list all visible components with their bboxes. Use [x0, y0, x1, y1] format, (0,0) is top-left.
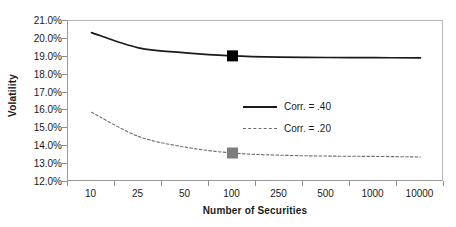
y-axis-tick-label: 21.0%: [34, 15, 62, 26]
x-axis-tick-mark: [208, 181, 209, 186]
x-axis-tick-mark: [302, 181, 303, 186]
x-axis-tick-mark: [161, 181, 162, 186]
y-axis-tick-mark: [62, 74, 67, 75]
y-axis-tick-label: 13.0%: [34, 158, 62, 169]
y-axis-tick-label: 20.0%: [34, 32, 62, 43]
x-axis-title: Number of Securities: [67, 205, 443, 216]
y-axis-tick-label: 17.0%: [34, 86, 62, 97]
volatility-line-chart: Volatility 21.0%20.0%19.0%18.0%17.0%16.0…: [0, 0, 456, 227]
x-axis-tick-label: 25: [132, 188, 143, 199]
y-axis-title-label: Volatility: [7, 74, 18, 117]
x-axis-tick-label: 500: [317, 188, 334, 199]
y-axis-tick-mark: [62, 92, 67, 93]
y-axis-tick-mark: [62, 56, 67, 57]
x-axis-tick-label: 100: [223, 188, 240, 199]
legend-item-label: Corr. = .20: [284, 123, 331, 134]
x-axis-tick-label: 50: [179, 188, 190, 199]
legend-item: Corr. = .20: [243, 117, 368, 139]
y-axis-tick-mark: [62, 145, 67, 146]
legend-item-label: Corr. = .40: [284, 101, 331, 112]
x-axis-tick-mark: [114, 181, 115, 186]
y-axis-tick-label: 14.0%: [34, 140, 62, 151]
x-axis-tick-labels: 102550100250500100010000: [67, 188, 443, 202]
y-axis-tick-mark: [62, 20, 67, 21]
x-axis-tick-mark: [255, 181, 256, 186]
series-line-1: [92, 33, 421, 58]
x-axis-tick-mark: [349, 181, 350, 186]
x-axis-tick-mark: [67, 181, 68, 186]
y-axis-tick-labels: 21.0%20.0%19.0%18.0%17.0%16.0%15.0%14.0%…: [20, 14, 64, 188]
y-axis-tick-mark: [62, 127, 67, 128]
y-axis-tick-label: 16.0%: [34, 104, 62, 115]
x-axis-tick-mark: [443, 181, 444, 186]
y-axis-tick-label: 19.0%: [34, 50, 62, 61]
x-axis-tick-label: 10: [85, 188, 96, 199]
legend-item: Corr. = .40: [243, 95, 368, 117]
legend-line-swatch: [243, 101, 277, 111]
x-axis-tick-label: 10000: [406, 188, 434, 199]
legend-line-swatch: [243, 123, 277, 133]
x-axis-tick-label: 1000: [361, 188, 383, 199]
x-axis-tick-mark: [396, 181, 397, 186]
y-axis-tick-label: 15.0%: [34, 122, 62, 133]
x-axis-tick-label: 250: [270, 188, 287, 199]
y-axis-tick-mark: [62, 38, 67, 39]
legend-line-icon: [243, 128, 277, 129]
y-axis-tick-mark: [62, 163, 67, 164]
legend-line-icon: [243, 106, 277, 108]
y-axis-tick-label: 12.0%: [34, 176, 62, 187]
y-axis-tick-mark: [62, 109, 67, 110]
chart-legend: Corr. = .40Corr. = .20: [243, 95, 368, 139]
series-marker-2: [227, 148, 238, 159]
y-axis-tick-label: 18.0%: [34, 68, 62, 79]
series-marker-1: [227, 50, 238, 61]
